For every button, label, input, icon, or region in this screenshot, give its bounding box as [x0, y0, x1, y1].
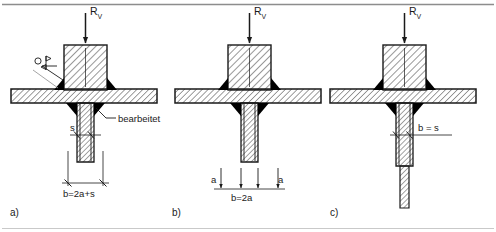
- fillet-weld-b-top-left: [218, 78, 228, 90]
- weld-flag-icon: [46, 56, 51, 61]
- base-plate-c: [330, 89, 476, 103]
- panel-b: R V a a b=2a b): [172, 5, 321, 218]
- load-label-a-subscript: V: [98, 13, 103, 20]
- fillet-weld-c-bot-left: [385, 103, 396, 116]
- field-weld-symbol-a: [33, 56, 63, 88]
- web-plate-c-lower: [400, 166, 409, 208]
- technical-drawing-canvas: R V bearbeitet: [0, 0, 496, 232]
- fillet-weld-a-bot-right: [94, 103, 105, 116]
- fillet-weld-c-bot-right: [413, 103, 424, 116]
- weld-all-around-circle-icon: [35, 58, 41, 64]
- load-label-c-subscript: V: [417, 13, 422, 20]
- throat-dim-label-b-left: a: [211, 174, 217, 185]
- machined-note-a: bearbeitet: [118, 113, 161, 124]
- fillet-weld-b-top-right: [271, 78, 281, 90]
- width-dim-label-a: b=2a+s: [63, 188, 95, 199]
- width-dim-label-b: b=2a: [231, 192, 253, 203]
- panel-caption-a: a): [10, 207, 19, 218]
- fillet-weld-c-top-right: [426, 78, 436, 90]
- base-plate-b: [175, 89, 321, 103]
- width-dim-label-c: b = s: [418, 122, 439, 133]
- panel-caption-c: c): [330, 207, 338, 218]
- fillet-weld-a-top-right: [107, 78, 117, 90]
- base-plate-a: [11, 89, 157, 103]
- fillet-weld-c-top-left: [373, 78, 383, 90]
- figure-root: R V bearbeitet: [0, 0, 496, 232]
- fillet-weld-a-bot-left: [66, 103, 77, 116]
- throat-dim-label-b-right: a: [278, 174, 284, 185]
- thickness-dim-label-a: s: [70, 122, 75, 133]
- fillet-weld-b-bot-right: [258, 103, 269, 116]
- panel-a: R V bearbeitet: [10, 5, 161, 218]
- panel-caption-b: b): [172, 207, 181, 218]
- load-label-b-subscript: V: [262, 13, 267, 20]
- fillet-weld-b-bot-left: [230, 103, 241, 116]
- panel-c: R V b = s c): [330, 5, 476, 218]
- throat-dim-b: [214, 168, 285, 189]
